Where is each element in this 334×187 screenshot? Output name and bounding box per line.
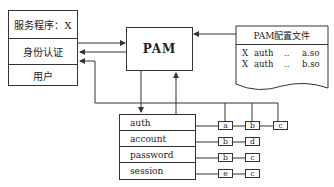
module-b: b [218,137,233,146]
module-type-session: session [120,163,195,179]
module-b: b [245,121,260,130]
pam-config-file: PAM配置文件 X auth .. a.so X auth .. b.so [236,26,328,88]
module-b: b [218,153,233,162]
config-entry: X auth .. b.so [242,59,322,69]
module-a: a [218,121,233,130]
module-c: c [245,153,260,162]
module-type-password: password [120,147,195,163]
module-c: c [273,121,288,130]
module-e: e [218,169,233,178]
config-title: PAM配置文件 [236,26,328,45]
module-type-account: account [120,131,195,147]
module-c: c [245,169,260,178]
pam-box: PAM [126,27,193,71]
service-program-box: 服务程序：X 身份认证 用户 [8,10,78,86]
module-type-box: auth account password session [119,114,196,180]
service-row-user: 用户 [9,65,77,85]
service-row-auth: 身份认证 [9,39,77,65]
pam-label: PAM [127,28,192,70]
module-d: d [245,137,260,146]
module-type-auth: auth [120,115,195,131]
config-entry: X auth .. a.so [242,48,322,58]
service-title: 服务程序：X [9,11,77,39]
